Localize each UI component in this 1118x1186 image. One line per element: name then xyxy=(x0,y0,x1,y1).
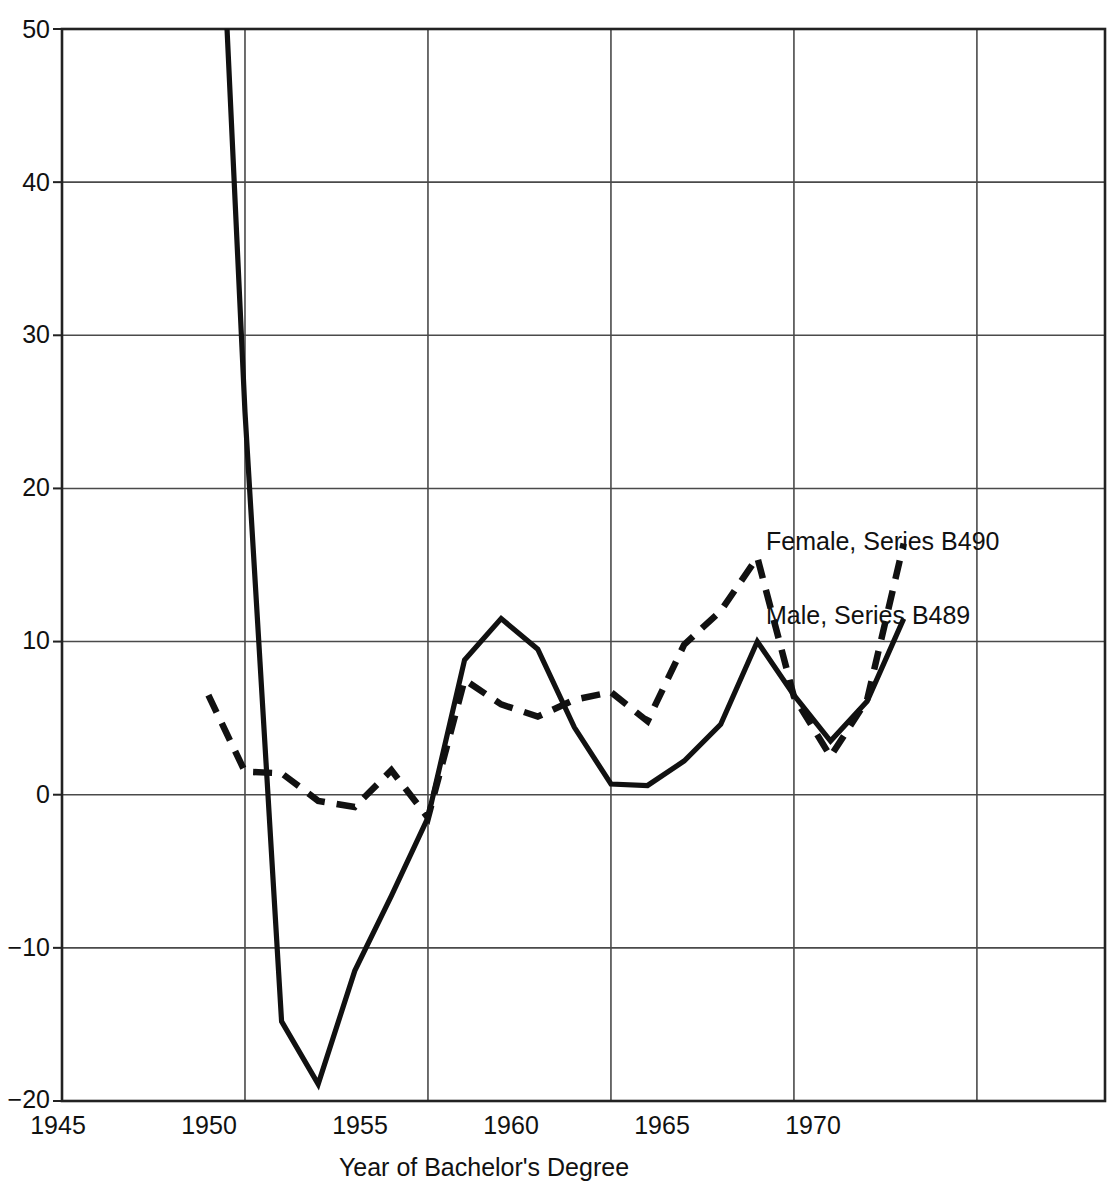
y-tick-label-neg10: −10 xyxy=(0,935,50,960)
y-tick-label-10: 10 xyxy=(0,628,50,653)
series-label-male: Male, Series B489 xyxy=(766,603,970,628)
y-tick-label-neg20: −20 xyxy=(0,1087,50,1112)
chart-plot-area xyxy=(0,0,1118,1186)
x-tick-label-1950: 1950 xyxy=(173,1113,245,1138)
x-tick-label-1945: 1945 xyxy=(22,1113,94,1138)
y-tick-label-20: 20 xyxy=(0,475,50,500)
plot-frame xyxy=(53,29,1105,1101)
gridlines xyxy=(62,29,1105,1101)
x-axis-title: Year of Bachelor's Degree xyxy=(234,1155,734,1180)
x-tick-label-1960: 1960 xyxy=(475,1113,547,1138)
series-label-female: Female, Series B490 xyxy=(766,529,999,554)
y-tick-label-40: 40 xyxy=(0,170,50,195)
chart-figure: 50 40 30 20 10 0 −10 −20 1945 1950 1955 … xyxy=(0,0,1118,1186)
x-tick-label-1970: 1970 xyxy=(777,1113,849,1138)
x-tick-label-1965: 1965 xyxy=(626,1113,698,1138)
y-tick-label-50: 50 xyxy=(0,17,50,42)
y-tick-label-30: 30 xyxy=(0,322,50,347)
y-tick-label-0: 0 xyxy=(0,782,50,807)
x-tick-label-1955: 1955 xyxy=(324,1113,396,1138)
series-path-female xyxy=(208,544,903,818)
